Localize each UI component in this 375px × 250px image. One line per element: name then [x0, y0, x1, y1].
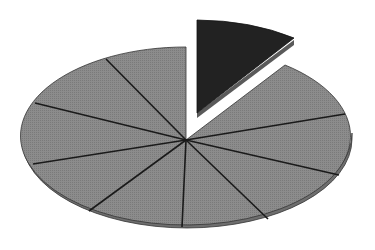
pie-body: [21, 47, 351, 225]
pie-chart: 3D pie chart with ten equal slices, one …: [0, 0, 375, 250]
